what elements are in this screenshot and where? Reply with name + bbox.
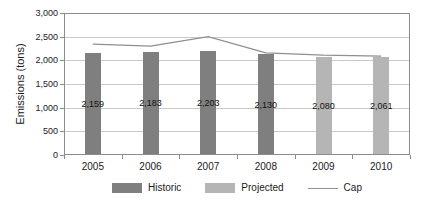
legend-item-projected: Projected <box>205 182 283 194</box>
legend-item-cap: Cap <box>308 182 362 194</box>
data-label-2005: 2,159 <box>71 98 115 110</box>
data-label-2010: 2,061 <box>359 100 403 112</box>
y-axis-tick <box>60 108 64 109</box>
x-axis-tick <box>179 155 180 159</box>
x-axis-label-2010: 2010 <box>352 161 410 173</box>
x-axis-label-2007: 2007 <box>179 161 237 173</box>
historic-swatch <box>112 183 142 193</box>
y-axis-tick <box>60 131 64 132</box>
x-axis-label-2006: 2006 <box>122 161 180 173</box>
legend-label-projected: Projected <box>241 182 283 194</box>
y-tick-label: 500 <box>18 126 58 137</box>
y-tick-label: 3,000 <box>18 8 58 19</box>
legend-label-historic: Historic <box>148 182 181 194</box>
y-tick-label: 1,500 <box>18 79 58 90</box>
y-axis-tick <box>60 60 64 61</box>
data-label-2007: 2,203 <box>186 97 230 109</box>
y-axis-tick <box>60 84 64 85</box>
data-label-2006: 2,183 <box>129 97 173 109</box>
projected-swatch <box>205 183 235 193</box>
x-axis-label-2009: 2009 <box>295 161 353 173</box>
x-axis-label-2005: 2005 <box>64 161 122 173</box>
x-axis-tick <box>64 155 65 159</box>
y-tick-label: 2,500 <box>18 32 58 43</box>
legend-item-historic: Historic <box>112 182 181 194</box>
x-axis-tick <box>237 155 238 159</box>
plot-area-border <box>64 13 410 155</box>
y-axis-tick <box>60 37 64 38</box>
chart-legend: Historic Projected Cap <box>64 180 410 196</box>
x-axis-tick <box>122 155 123 159</box>
y-tick-label: 0 <box>18 150 58 161</box>
legend-label-cap: Cap <box>344 182 362 194</box>
data-label-2008: 2,130 <box>244 99 288 111</box>
y-axis-tick <box>60 13 64 14</box>
x-axis-tick <box>352 155 353 159</box>
data-label-2009: 2,080 <box>302 100 346 112</box>
x-axis-tick <box>295 155 296 159</box>
x-axis-tick <box>410 155 411 159</box>
x-axis-label-2008: 2008 <box>237 161 295 173</box>
y-tick-label: 2,000 <box>18 55 58 66</box>
emissions-bar-chart: Emissions (tons) Historic Projected Cap … <box>0 0 433 206</box>
cap-line-swatch <box>308 188 338 189</box>
y-tick-label: 1,000 <box>18 103 58 114</box>
